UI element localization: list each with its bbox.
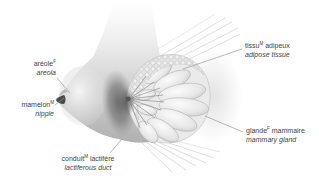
breast-profile-highlight xyxy=(59,66,107,126)
anatomy-figure: aréoleF areola mamelonM nipple tissuM ad… xyxy=(0,0,319,178)
label-mammary-gland: glandeF mammaire mammary gland xyxy=(246,126,305,144)
nipple-shape xyxy=(56,95,66,104)
label-areola-en: areola xyxy=(8,68,56,77)
label-adipose-tissue: tissuM adipeux adipose tissue xyxy=(245,41,290,59)
duct-convergence-point xyxy=(126,97,131,102)
label-areola-fr: aréoleF xyxy=(8,59,56,68)
label-nipple: mamelonM nipple xyxy=(6,100,54,118)
gender-sup: M xyxy=(50,100,54,105)
cutaway-nipple-shadow xyxy=(117,87,135,117)
label-duct-en: lactiferous duct xyxy=(53,163,123,172)
hatch-lines-bottom xyxy=(140,139,220,172)
gender-sup: F xyxy=(53,59,56,64)
label-nipple-en: nipple xyxy=(6,109,54,118)
leader-line-duct xyxy=(110,139,122,153)
label-lactiferous-duct: conduitM lactifère lactiferous duct xyxy=(53,154,123,172)
label-adipose-fr: tissuM adipeux xyxy=(245,41,290,50)
label-gland-en: mammary gland xyxy=(246,135,305,144)
breast-illustration-svg xyxy=(0,0,319,178)
label-nipple-fr: mamelonM xyxy=(6,100,54,109)
label-duct-fr: conduitM lactifère xyxy=(53,154,123,163)
label-areola: aréoleF areola xyxy=(8,59,56,77)
label-adipose-en: adipose tissue xyxy=(245,50,290,59)
label-gland-fr: glandeF mammaire xyxy=(246,126,305,135)
